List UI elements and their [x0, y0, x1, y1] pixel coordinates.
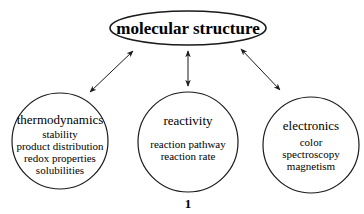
node-item: spectroscopy	[282, 148, 340, 160]
arrow-electronics	[241, 49, 280, 90]
molecular-structure-node: molecular structure	[110, 11, 266, 45]
diagram-canvas: molecular structure thermodynamics stabi…	[0, 0, 364, 214]
reactivity-node: reactivity reaction pathway reaction rat…	[138, 92, 238, 192]
node-title: thermodynamics	[17, 112, 104, 127]
node-item: product distribution	[16, 140, 104, 152]
node-item: magnetism	[287, 160, 336, 172]
node-item: color	[300, 136, 323, 148]
electronics-node: electronics color spectroscopy magnetism	[263, 97, 359, 193]
node-item: solubilities	[36, 164, 84, 176]
node-item: redox properties	[24, 152, 96, 164]
node-item: reaction rate	[161, 150, 216, 162]
arrow-thermodynamics	[90, 51, 133, 92]
node-title: electronics	[283, 118, 339, 133]
node-item: stability	[42, 128, 78, 140]
node-item: reaction pathway	[150, 138, 226, 150]
node-title: reactivity	[163, 113, 213, 128]
figure-label: 1	[185, 196, 192, 211]
thermodynamics-node: thermodynamics stability product distrib…	[12, 93, 108, 189]
center-label: molecular structure	[116, 19, 260, 38]
